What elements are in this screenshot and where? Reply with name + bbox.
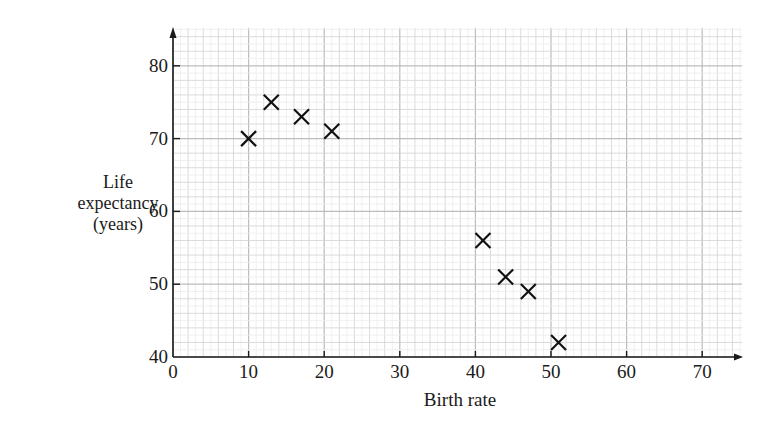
y-axis-label: Life expectancy (years) <box>62 172 174 235</box>
y-tick-label: 50 <box>126 274 168 293</box>
x-tick-label: 30 <box>380 362 420 381</box>
y-tick-label: 70 <box>126 129 168 148</box>
y-axis-label-line-1: Life <box>62 172 174 193</box>
x-tick-label: 20 <box>304 362 344 381</box>
x-tick-label: 50 <box>531 362 571 381</box>
x-tick-label: 40 <box>455 362 495 381</box>
x-tick-label: 70 <box>682 362 722 381</box>
y-tick-label: 40 <box>126 347 168 366</box>
x-axis-label: Birth rate <box>400 389 520 411</box>
y-axis-label-line-3: (years) <box>62 214 174 235</box>
x-tick-label: 60 <box>607 362 647 381</box>
y-tick-label: 80 <box>126 56 168 75</box>
y-axis-arrow-icon <box>170 27 177 38</box>
x-axis-arrow-icon <box>734 354 743 361</box>
y-axis-label-line-2: expectancy <box>62 193 174 214</box>
x-tick-label: 10 <box>229 362 269 381</box>
